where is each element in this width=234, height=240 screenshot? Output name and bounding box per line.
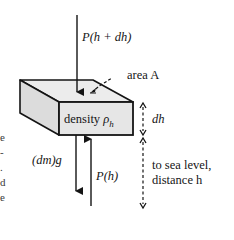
sea-level-label-line2: distance h [152,173,202,187]
weight-label: (dm)g [32,153,62,167]
sea-level-distance-arrow [140,138,146,208]
density-subscript: h [109,119,114,129]
margin-fragment-1: e [0,131,6,143]
sea-level-label-line1: to sea level, [152,158,211,172]
area-label-text: area A [127,68,159,82]
density-label: density ρh [64,112,114,131]
thickness-label: dh [152,112,165,126]
area-label: area A [127,68,159,82]
margin-fragment-4: d [0,176,6,188]
margin-fragment-2: - [0,146,6,158]
density-word: density [64,112,100,126]
margin-fragment-5: e [0,191,6,203]
top-force-label: P(h + dh) [82,30,131,44]
bottom-force-label: P(h) [96,169,118,183]
margin-fragment-3: . [0,161,6,173]
thickness-dimension-arrow [140,103,146,135]
